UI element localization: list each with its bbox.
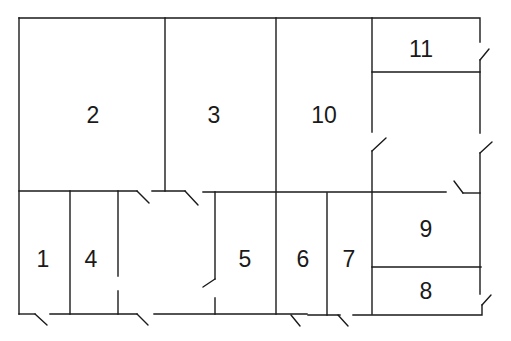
door-swing-6 xyxy=(291,315,300,326)
door-swing-10 xyxy=(372,138,386,151)
room-9-label: 9 xyxy=(420,218,433,241)
room-5-label: 5 xyxy=(239,248,252,271)
door-swing-1 xyxy=(35,314,47,325)
room-7-label: 7 xyxy=(343,248,356,271)
door-swing-11 xyxy=(480,49,489,60)
room-2-label: 2 xyxy=(87,104,100,127)
floor-plan xyxy=(0,0,511,341)
room-4-label: 4 xyxy=(85,248,98,271)
door-swing-3 xyxy=(185,191,198,205)
room-8-label: 8 xyxy=(420,280,433,303)
room-11-label: 11 xyxy=(409,38,433,61)
door-swing-7 xyxy=(338,315,348,326)
room-10-label: 10 xyxy=(311,104,337,127)
door-swing-9 xyxy=(454,181,463,193)
door-swing-8 xyxy=(482,295,491,305)
room-1-label: 1 xyxy=(37,248,50,271)
door-swing-5 xyxy=(203,279,215,287)
room-6-label: 6 xyxy=(297,248,310,271)
door-swing-right-lower xyxy=(480,142,492,153)
door-swing-2 xyxy=(137,191,149,203)
room-3-label: 3 xyxy=(208,104,221,127)
door-swing-4 xyxy=(137,314,148,325)
